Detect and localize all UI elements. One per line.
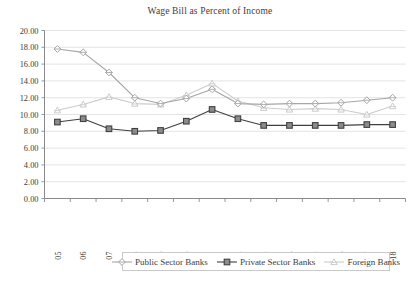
y-axis-tick-label: 2.00 [24,178,39,187]
y-axis-tick-label: 6.00 [24,144,39,153]
data-point-marker [235,116,241,122]
data-point-marker [209,107,215,113]
legend-label: Public Sector Banks [135,257,208,267]
data-point-marker [118,258,125,265]
data-point-marker [286,100,293,107]
legend-entry[interactable]: Foreign Banks [324,257,400,267]
data-point-marker [184,118,190,124]
data-point-marker [132,129,138,135]
y-axis-tick-label: 4.00 [24,161,39,170]
y-axis-tick-label: 14.00 [20,77,39,86]
y-axis-tick-label: 16.00 [20,60,39,69]
data-point-marker [389,94,396,101]
data-point-marker [338,123,344,129]
data-point-marker [106,94,113,100]
x-axis-tick-label: 2004/05 [54,252,63,261]
data-point-marker [364,122,370,128]
chart-container: Wage Bill as Percent of Income 0.002.004… [0,0,420,285]
data-point-marker [261,123,267,129]
data-point-marker [209,86,216,93]
y-axis-tick-label: 10.00 [20,111,39,120]
data-point-marker [158,128,164,134]
legend-label: Foreign Banks [347,257,400,267]
data-point-marker [80,116,86,122]
data-point-marker [390,122,396,128]
legend-entry[interactable]: Public Sector Banks [112,257,208,267]
legend-entry[interactable]: Private Sector Banks [217,257,316,267]
y-axis-tick-label: 18.00 [20,43,39,52]
legend-label: Private Sector Banks [240,257,316,267]
chart-plot-area: 0.002.004.006.008.0010.0012.0014.0016.00… [0,0,420,260]
y-axis-tick-label: 12.00 [20,94,39,103]
data-point-marker [389,103,396,109]
data-point-marker [312,123,318,129]
y-axis-tick-label: 0.00 [24,195,39,204]
y-axis-tick-label: 20.00 [20,27,39,36]
chart-legend: Public Sector BanksPrivate Sector BanksF… [122,252,390,271]
y-axis-tick-label: 8.00 [24,127,39,136]
data-point-marker [224,259,230,265]
legend-marker-square-icon [217,257,237,267]
data-point-marker [106,126,112,132]
x-axis-tick-label: 2005/06 [79,252,88,261]
data-point-marker [54,46,61,53]
data-point-marker [338,99,345,106]
data-point-marker [55,119,61,125]
data-point-marker [287,123,293,129]
data-point-marker [312,100,319,107]
legend-marker-triangle-icon [324,257,344,267]
legend-marker-diamond-icon [112,257,132,267]
